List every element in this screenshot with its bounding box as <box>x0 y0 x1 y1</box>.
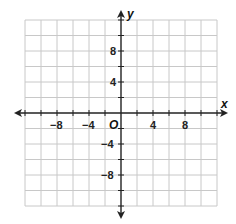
x-tick-label-neg8: −8 <box>50 119 63 131</box>
y-axis-label: y <box>126 7 135 21</box>
x-tick-label-8: 8 <box>182 119 188 131</box>
coordinate-plane: y x O −8 −4 4 8 8 4 −4 −8 <box>0 0 236 224</box>
y-tick-label-neg8: −8 <box>101 169 114 181</box>
y-tick-label-4: 4 <box>110 76 117 88</box>
x-tick-label-4: 4 <box>150 119 157 131</box>
x-tick-label-neg4: −4 <box>82 119 95 131</box>
y-tick-label-8: 8 <box>110 45 116 57</box>
origin-label: O <box>109 118 119 132</box>
x-axis-label: x <box>220 97 229 111</box>
y-tick-label-neg4: −4 <box>101 138 114 150</box>
